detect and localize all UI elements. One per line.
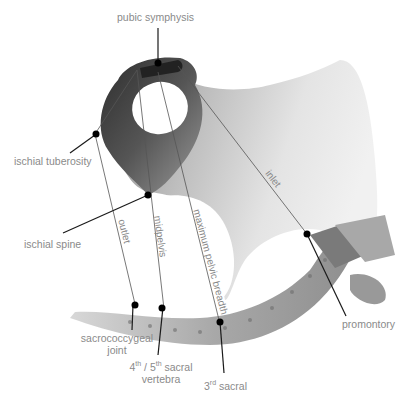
dot-sacrococcygeal (132, 302, 139, 309)
label-sacrococcygeal-joint: sacrococcygeal joint (72, 332, 162, 356)
label-promontory: promontory (342, 318, 395, 330)
dot-ischial-tuberosity (93, 131, 100, 138)
dot-sacral-4-5 (159, 305, 166, 312)
dot-sacral-3 (217, 319, 224, 326)
dot-ischial-spine (145, 192, 152, 199)
dot-promontory (304, 231, 311, 238)
label-sacral-4-5-vertebra: 4th / 5th sacral vertebra (118, 358, 204, 385)
leader-ischial-tuberosity (70, 135, 95, 153)
pelvis-diagram: pubic symphysis ischial tuberosity ischi… (0, 0, 414, 393)
label-ischial-spine: ischial spine (24, 238, 81, 250)
label-sacral-3: 3rd sacral (204, 377, 247, 392)
pelvis-illustration (0, 0, 414, 393)
leader-ischial-spine (63, 195, 148, 233)
label-ischial-tuberosity: ischial tuberosity (14, 155, 92, 167)
dot-pubic-symphysis (155, 60, 162, 67)
label-pubic-symphysis: pubic symphysis (117, 11, 194, 23)
